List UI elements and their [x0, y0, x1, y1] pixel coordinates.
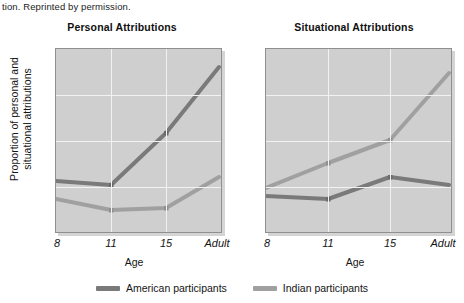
gridline-vertical: [166, 49, 167, 232]
chart-title-situational: Situational Attributions: [232, 21, 464, 33]
legend-label-american: American participants: [126, 282, 227, 294]
legend-item-american: American participants: [96, 282, 227, 294]
line-american-situational: [266, 177, 449, 199]
x-tick-11: 11: [322, 237, 333, 249]
gridline-horizontal: [56, 141, 221, 142]
plot-area-situational: [265, 48, 452, 233]
panel-personal-attributions: Personal Attributions: [0, 18, 232, 280]
x-tick-8: 8: [264, 237, 270, 249]
gridline-horizontal: [56, 187, 221, 188]
plot-area-personal: 50 25: [55, 48, 222, 233]
chart-title-personal: Personal Attributions: [0, 21, 232, 33]
legend-item-indian: Indian participants: [253, 282, 368, 294]
line-american-personal: [56, 67, 219, 185]
figure-container: tion. Reprinted by permission. Personal …: [0, 0, 464, 303]
y-axis-title-line2: situational attributions: [21, 68, 33, 170]
gridline-horizontal: [56, 95, 221, 96]
gridline-vertical: [111, 49, 112, 232]
x-tick-11: 11: [105, 237, 116, 249]
x-axis-title-situational: Age: [232, 256, 464, 268]
line-indian-situational: [266, 73, 449, 188]
gridline-horizontal: [266, 95, 451, 96]
source-caption: tion. Reprinted by permission.: [2, 1, 131, 13]
gridline-horizontal: [266, 187, 451, 188]
x-axis-title-personal: Age: [0, 256, 232, 268]
x-tick-adult: Adult: [204, 237, 229, 249]
legend-swatch-indian-icon: [253, 286, 277, 291]
legend-swatch-american-icon: [96, 286, 120, 291]
panel-situational-attributions: Situational Attributions: [232, 18, 464, 280]
y-axis-title-line1: Proportion of personal and: [8, 57, 20, 181]
legend-label-indian: Indian participants: [283, 282, 368, 294]
gridline-horizontal: [266, 141, 451, 142]
chart-legend: American participants Indian participant…: [0, 282, 464, 294]
x-tick-15: 15: [384, 237, 396, 249]
y-axis-title: Proportion of personal and situational a…: [8, 24, 34, 214]
x-tick-15: 15: [160, 237, 172, 249]
gridline-vertical: [390, 49, 391, 232]
x-tick-8: 8: [54, 237, 60, 249]
x-tick-adult: Adult: [430, 237, 455, 249]
gridline-vertical: [328, 49, 329, 232]
